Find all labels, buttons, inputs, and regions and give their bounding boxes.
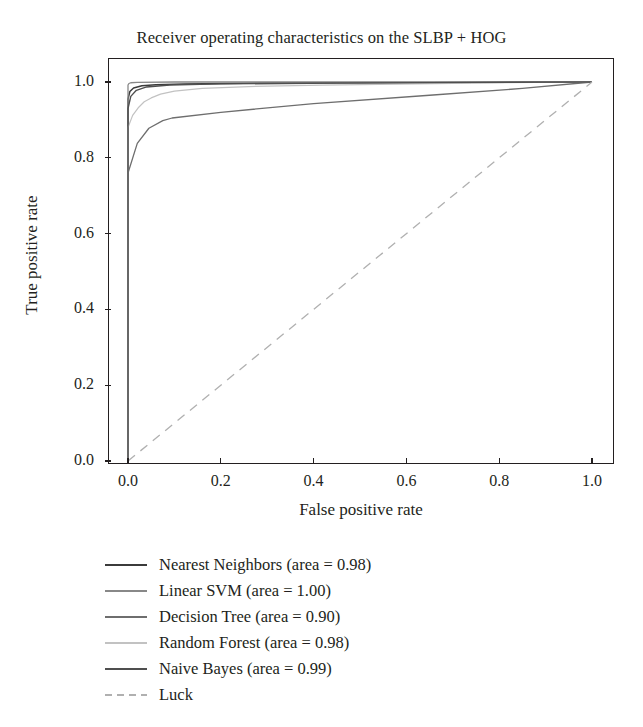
x-tick-label: 1.0 [562,472,622,490]
roc-curve-linear-svm [128,82,592,461]
legend-line-swatch-icon [104,584,148,598]
x-tick-mark [220,458,221,464]
y-tick-label: 0.4 [38,299,94,317]
y-tick-mark [105,157,111,158]
x-tick-label: 0.6 [376,472,436,490]
x-tick-mark [499,458,500,464]
legend-item-label: Nearest Neighbors (area = 0.98) [159,555,371,575]
chart-legend: Nearest Neighbors (area = 0.98)Linear SV… [104,552,564,708]
legend-line-swatch-icon [104,610,148,624]
roc-curve-decision-tree [128,82,592,461]
legend-item-label: Luck [159,685,193,705]
legend-item[interactable]: Luck [104,682,564,708]
plot-area [108,58,614,464]
x-tick-label: 0.2 [191,472,251,490]
legend-line-swatch-icon [104,662,148,676]
roc-curve-nearest-neighbors [128,82,592,461]
x-tick-mark [127,458,128,464]
roc-curves-layer [108,58,614,464]
legend-line-swatch-icon [104,636,148,650]
legend-item-label: Decision Tree (area = 0.90) [159,607,340,627]
y-tick-mark [105,309,111,310]
x-tick-label: 0.4 [284,472,344,490]
x-tick-mark [406,458,407,464]
x-axis-label: False positive rate [108,500,614,520]
x-tick-mark [591,458,592,464]
y-tick-mark [105,233,111,234]
legend-line-swatch-icon [104,688,148,702]
y-tick-label: 0.8 [38,148,94,166]
roc-curve-naive-bayes [128,82,592,461]
y-tick-label: 1.0 [38,72,94,90]
legend-item[interactable]: Linear SVM (area = 1.00) [104,578,564,604]
roc-chart-figure: Receiver operating characteristics on th… [0,0,643,727]
legend-line-swatch-icon [104,558,148,572]
chart-title: Receiver operating characteristics on th… [0,28,643,48]
x-tick-mark [313,458,314,464]
legend-item-label: Naive Bayes (area = 0.99) [159,659,332,679]
legend-item[interactable]: Nearest Neighbors (area = 0.98) [104,552,564,578]
legend-item-label: Random Forest (area = 0.98) [159,633,349,653]
y-tick-mark [105,81,111,82]
roc-curve-random-forest [128,82,592,461]
legend-item[interactable]: Decision Tree (area = 0.90) [104,604,564,630]
y-tick-label: 0.0 [38,451,94,469]
y-tick-label: 0.6 [38,224,94,242]
x-tick-label: 0.8 [469,472,529,490]
x-tick-label: 0.0 [98,472,158,490]
legend-item[interactable]: Naive Bayes (area = 0.99) [104,656,564,682]
y-tick-label: 0.2 [38,375,94,393]
y-tick-mark [105,385,111,386]
y-axis-label: True positive rate [22,135,42,375]
y-tick-mark [105,460,111,461]
roc-curve-luck [128,82,592,461]
legend-item-label: Linear SVM (area = 1.00) [159,581,331,601]
legend-item[interactable]: Random Forest (area = 0.98) [104,630,564,656]
